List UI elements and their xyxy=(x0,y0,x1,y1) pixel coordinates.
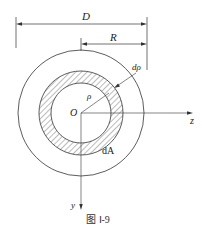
rho-label: ρ xyxy=(86,91,92,101)
z-axis-label: z xyxy=(189,115,194,126)
area-element-label: dA xyxy=(102,145,115,156)
diameter-dimension: D xyxy=(16,10,147,70)
diameter-label: D xyxy=(81,10,90,22)
drho-label: dρ xyxy=(132,62,142,72)
figure-caption: 图 Ⅰ-9 xyxy=(86,214,110,225)
origin-label: O xyxy=(70,107,77,118)
y-axis-label: y xyxy=(70,200,75,210)
radius-label: R xyxy=(109,31,117,43)
rho-line xyxy=(81,93,109,113)
y-axis-arrow-icon xyxy=(79,204,82,210)
cross-section-diagram: D R ρ dρ z y O dA 图 Ⅰ-9 xyxy=(0,0,202,230)
radius-dimension: R xyxy=(81,31,147,51)
